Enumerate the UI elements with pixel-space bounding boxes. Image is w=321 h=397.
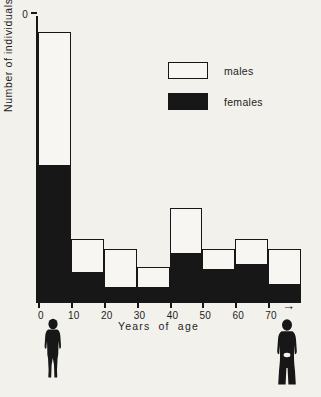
x-tick-label: 50 (200, 310, 212, 321)
bar-segment-males (137, 267, 170, 288)
x-tick (170, 303, 172, 308)
x-tick (71, 303, 73, 308)
legend-label-males: males (224, 65, 254, 77)
x-tick (235, 303, 237, 308)
bar-segment-males (170, 208, 203, 255)
legend-swatch-females (168, 93, 208, 110)
x-axis-arrow-icon: → (282, 299, 295, 312)
x-tick (202, 303, 204, 308)
x-tick-label: 10 (68, 310, 80, 321)
histogram-bar (235, 239, 268, 301)
histogram-figure: Number of individuals 01020304050 010203… (0, 0, 321, 397)
bar-segment-males (235, 239, 268, 265)
histogram-bar (38, 32, 71, 301)
x-tick (268, 303, 270, 308)
legend: males females (168, 62, 263, 124)
histogram-bar (170, 208, 203, 301)
bar-segment-females (137, 288, 170, 301)
y-tick (31, 12, 37, 14)
bar-segment-females (71, 273, 104, 302)
bar-segment-females (202, 270, 235, 301)
x-axis-title: Years of age (118, 320, 199, 332)
bar-segment-females (235, 265, 268, 301)
bar-segment-males (268, 249, 301, 285)
x-tick (137, 303, 139, 308)
bar-segment-males (202, 249, 235, 270)
bar-segment-males (38, 32, 71, 167)
histogram-bar (104, 249, 137, 301)
bar-segment-males (104, 249, 137, 288)
bar-segment-females (104, 288, 137, 301)
x-axis-line (36, 301, 301, 303)
bar-group (38, 16, 301, 301)
legend-swatch-males (168, 62, 208, 79)
legend-label-females: females (224, 96, 263, 108)
adult-silhouette-icon (272, 318, 302, 390)
x-tick (104, 303, 106, 308)
bar-segment-males (71, 239, 104, 273)
x-tick-label: 60 (232, 310, 244, 321)
x-tick-label: 20 (101, 310, 113, 321)
x-tick (38, 303, 40, 308)
bar-segment-females (170, 254, 203, 301)
child-silhouette-icon (40, 318, 66, 380)
bar-segment-females (38, 166, 71, 301)
histogram-bar (268, 249, 301, 301)
plot-area: 01020304050 010203040506070 (36, 16, 301, 303)
y-tick-label: 0 (6, 9, 28, 20)
legend-item-females: females (168, 93, 263, 110)
histogram-bar (137, 267, 170, 301)
histogram-bar (202, 249, 235, 301)
legend-item-males: males (168, 62, 263, 79)
histogram-bar (71, 239, 104, 301)
